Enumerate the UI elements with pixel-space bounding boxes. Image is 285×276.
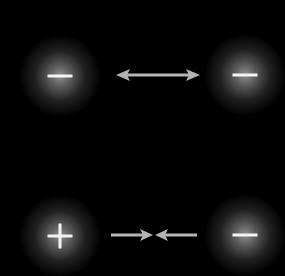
attraction-converging-arrows-icon	[111, 229, 197, 241]
repulsion-double-arrow-icon	[116, 69, 200, 81]
